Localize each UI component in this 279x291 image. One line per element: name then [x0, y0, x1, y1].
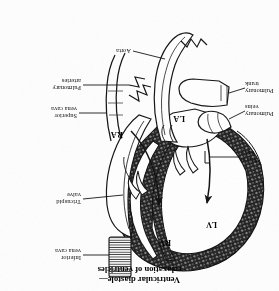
- pulmonary-veins-vessel: [198, 111, 231, 133]
- label-pulmonary-arteries-line1: Pulmonary: [53, 85, 82, 92]
- label-pulmonary-arteries-line2: arteries: [53, 77, 82, 84]
- chamber-label-lv: LV: [206, 220, 217, 229]
- label-superior-vena-cava: Superior vena cava: [51, 105, 77, 120]
- pulmonary-arteries-branches: [129, 85, 151, 101]
- heart-illustration: [0, 0, 279, 291]
- pulmonary-trunk-vessel: [179, 79, 229, 106]
- heart-diastole-figure: LV RV LA RA Inferior vena cava Tricuspid…: [0, 0, 279, 291]
- label-tricuspid-valve-line2: valve: [56, 191, 81, 198]
- label-aorta: Aorta: [116, 48, 131, 55]
- label-mitral-valve-line2: valve: [241, 149, 277, 156]
- label-pulmonary-veins-line2: veins: [245, 103, 279, 110]
- label-mitral-valve-line1: Mitral: [241, 157, 277, 164]
- superior-vena-cava-hatching: [108, 91, 123, 115]
- label-pulmonary-veins-line1: Pulmonary: [245, 111, 279, 118]
- leader-pulmonary-trunk: [229, 88, 245, 93]
- label-tricuspid-valve: Tricuspid valve: [56, 191, 81, 206]
- figure-caption-line1: Ventricular diastole—: [0, 275, 279, 285]
- leader-aorta: [133, 51, 165, 59]
- superior-vena-cava-vessel-medial: [116, 53, 125, 139]
- label-inferior-vena-cava-line2: vena cava: [55, 247, 81, 254]
- chamber-label-la: LA: [173, 114, 185, 123]
- chamber-label-ra: RA: [111, 130, 123, 139]
- label-superior-vena-cava-line1: Superior: [51, 113, 77, 120]
- label-pulmonary-arteries: Pulmonary arteries: [53, 77, 82, 92]
- superior-vena-cava-vessel: [106, 55, 115, 141]
- leader-pulmonary-veins: [229, 111, 245, 119]
- anatomical-plate: LV RV LA RA Inferior vena cava Tricuspid…: [0, 0, 279, 291]
- figure-caption-line2: relaxation of ventricles: [0, 265, 279, 275]
- label-pulmonary-trunk-line2: trunk: [245, 80, 279, 87]
- label-pulmonary-trunk: Pulmonary trunk: [245, 80, 279, 95]
- chamber-label-rv: RV: [159, 238, 171, 247]
- label-pulmonary-veins: Pulmonary veins: [245, 103, 279, 118]
- label-pulmonary-trunk-line1: Pulmonary: [245, 88, 279, 95]
- label-inferior-vena-cava-line1: Inferior: [55, 255, 81, 262]
- label-tricuspid-valve-line1: Tricuspid: [56, 199, 81, 206]
- figure-caption: Ventricular diastole— relaxation of vent…: [0, 265, 279, 285]
- label-inferior-vena-cava: Inferior vena cava: [55, 247, 81, 262]
- label-superior-vena-cava-line2: vena cava: [51, 105, 77, 112]
- label-mitral-valve: Mitral valve: [241, 149, 277, 164]
